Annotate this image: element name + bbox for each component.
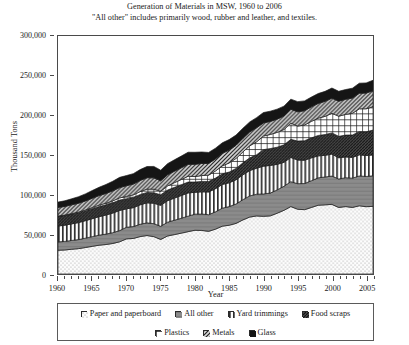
x-tick-major bbox=[57, 276, 58, 281]
legend-swatch-icon bbox=[203, 330, 209, 336]
x-tick-major bbox=[298, 276, 299, 281]
x-tick-minor bbox=[243, 276, 244, 279]
legend-item[interactable]: Glass bbox=[249, 328, 276, 337]
x-tick-minor bbox=[291, 276, 292, 279]
y-tick-label: 50,000 bbox=[24, 231, 46, 240]
x-tick-minor bbox=[216, 276, 217, 279]
x-tick-major bbox=[264, 276, 265, 281]
y-tick-mark bbox=[50, 235, 54, 236]
stacked-area-chart bbox=[58, 36, 373, 274]
x-tick-minor bbox=[71, 276, 72, 279]
x-tick-minor bbox=[140, 276, 141, 279]
legend-item[interactable]: Plastics bbox=[155, 328, 189, 337]
x-tick-minor bbox=[119, 276, 120, 279]
legend-swatch-icon bbox=[155, 330, 161, 336]
x-tick-minor bbox=[284, 276, 285, 279]
y-tick-mark bbox=[50, 75, 54, 76]
x-tick-minor bbox=[340, 276, 341, 279]
x-tick-major bbox=[91, 276, 92, 281]
x-tick-minor bbox=[374, 276, 375, 279]
chart-title: Generation of Materials in MSW, 1960 to … bbox=[0, 2, 409, 13]
legend-label: Plastics bbox=[164, 328, 189, 337]
x-tick-minor bbox=[360, 276, 361, 279]
y-tick-label: 200,000 bbox=[20, 111, 46, 120]
x-tick-major bbox=[126, 276, 127, 281]
x-tick-minor bbox=[181, 276, 182, 279]
legend-label: Food scraps bbox=[311, 309, 350, 318]
x-tick-minor bbox=[326, 276, 327, 279]
legend-swatch-icon bbox=[249, 330, 255, 336]
x-tick-minor bbox=[209, 276, 210, 279]
legend-label: All other bbox=[184, 309, 213, 318]
legend-swatch-icon bbox=[228, 311, 234, 317]
x-tick-major bbox=[229, 276, 230, 281]
y-tick-label: 150,000 bbox=[20, 151, 46, 160]
legend-label: Glass bbox=[258, 328, 276, 337]
legend-row-2: PlasticsMetalsGlass bbox=[58, 323, 373, 342]
x-tick-minor bbox=[153, 276, 154, 279]
x-tick-minor bbox=[188, 276, 189, 279]
legend-item[interactable]: Metals bbox=[203, 328, 234, 337]
legend-item[interactable]: Paper and paperboard bbox=[81, 309, 161, 318]
y-tick-label: 250,000 bbox=[20, 71, 46, 80]
y-tick-mark bbox=[50, 195, 54, 196]
plot-area bbox=[57, 35, 374, 275]
x-axis-label: Year bbox=[57, 290, 374, 299]
chart-title-block: Generation of Materials in MSW, 1960 to … bbox=[0, 2, 409, 23]
chart-legend: Paper and paperboardAll otherYard trimmi… bbox=[57, 303, 374, 341]
x-tick-minor bbox=[202, 276, 203, 279]
x-tick-minor bbox=[147, 276, 148, 279]
y-tick-mark bbox=[50, 155, 54, 156]
legend-label: Paper and paperboard bbox=[90, 309, 161, 318]
x-tick-minor bbox=[133, 276, 134, 279]
y-tick-mark bbox=[50, 115, 54, 116]
x-tick-minor bbox=[353, 276, 354, 279]
x-tick-minor bbox=[250, 276, 251, 279]
x-tick-minor bbox=[271, 276, 272, 279]
legend-label: Yard trimmings bbox=[237, 309, 288, 318]
y-axis-ticks: 050,000100,000150,000200,000250,000300,0… bbox=[0, 35, 54, 275]
x-tick-major bbox=[195, 276, 196, 281]
x-tick-minor bbox=[312, 276, 313, 279]
x-tick-minor bbox=[174, 276, 175, 279]
legend-label: Metals bbox=[212, 328, 234, 337]
x-tick-minor bbox=[222, 276, 223, 279]
legend-item[interactable]: Food scraps bbox=[302, 309, 350, 318]
x-tick-minor bbox=[78, 276, 79, 279]
y-tick-label: 300,000 bbox=[20, 31, 46, 40]
legend-item[interactable]: Yard trimmings bbox=[228, 309, 288, 318]
y-tick-mark bbox=[50, 275, 54, 276]
x-tick-major bbox=[333, 276, 334, 281]
x-tick-minor bbox=[257, 276, 258, 279]
x-tick-minor bbox=[319, 276, 320, 279]
x-tick-minor bbox=[305, 276, 306, 279]
x-tick-minor bbox=[112, 276, 113, 279]
y-tick-mark bbox=[50, 35, 54, 36]
legend-swatch-icon bbox=[81, 311, 87, 317]
legend-item[interactable]: All other bbox=[175, 309, 213, 318]
x-tick-minor bbox=[346, 276, 347, 279]
y-tick-label: 0 bbox=[42, 271, 46, 280]
y-tick-label: 100,000 bbox=[20, 191, 46, 200]
x-tick-minor bbox=[278, 276, 279, 279]
x-tick-minor bbox=[85, 276, 86, 279]
legend-swatch-icon bbox=[175, 311, 181, 317]
x-tick-minor bbox=[105, 276, 106, 279]
legend-row-1: Paper and paperboardAll otherYard trimmi… bbox=[58, 304, 373, 323]
x-tick-minor bbox=[98, 276, 99, 279]
x-tick-minor bbox=[64, 276, 65, 279]
x-tick-minor bbox=[167, 276, 168, 279]
x-tick-minor bbox=[236, 276, 237, 279]
x-tick-major bbox=[160, 276, 161, 281]
x-tick-major bbox=[367, 276, 368, 281]
legend-swatch-icon bbox=[302, 311, 308, 317]
chart-subtitle: "All other" includes primarily wood, rub… bbox=[0, 13, 409, 24]
